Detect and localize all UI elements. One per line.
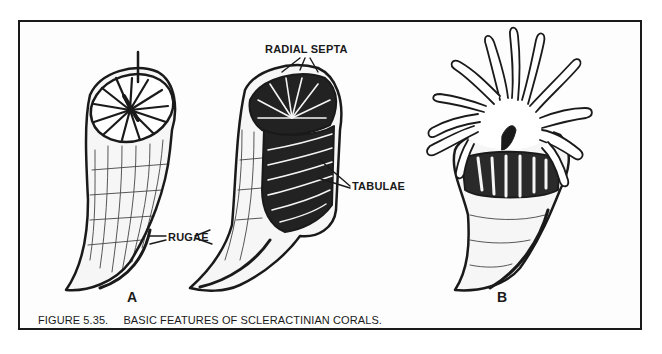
- figure-number: FIGURE 5.35.: [38, 314, 108, 326]
- coral-cup-exterior: [66, 52, 182, 290]
- label-rugae: RUGAE: [168, 231, 209, 243]
- label-radial-septa: RADIAL SEPTA: [265, 43, 348, 55]
- coral-cup-cutaway: [150, 58, 350, 291]
- figure-caption: FIGURE 5.35. BASIC FEATURES OF SCLERACTI…: [38, 314, 382, 326]
- coral-polyp: [427, 28, 592, 291]
- panel-letter-a: A: [127, 289, 137, 305]
- figure-title: BASIC FEATURES OF SCLERACTINIAN CORALS.: [123, 314, 382, 326]
- panel-letter-b: B: [497, 289, 507, 305]
- label-tabulae: TABULAE: [352, 180, 405, 192]
